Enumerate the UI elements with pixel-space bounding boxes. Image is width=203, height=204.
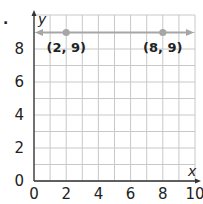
data-point: [159, 29, 166, 36]
y-axis-label: y: [37, 11, 47, 27]
tick-labels: 024681002468: [14, 40, 203, 203]
y-tick-label: 4: [14, 106, 24, 124]
point-label: (8, 9): [143, 40, 182, 55]
x-tick-label: 10: [185, 185, 203, 203]
y-tick-label: 8: [14, 40, 24, 58]
x-tick-label: 8: [158, 185, 168, 203]
point-label: (2, 9): [46, 40, 85, 55]
x-tick-label: 4: [94, 185, 104, 203]
x-axis-arrow-icon: [195, 179, 201, 184]
y-tick-label: 6: [14, 73, 24, 91]
x-axis-label: x: [187, 163, 197, 179]
line-arrow-right-icon: [186, 29, 194, 36]
y-tick-label: 2: [14, 139, 24, 157]
y-axis-arrow-icon: [32, 10, 37, 16]
y-tick-label: 0: [14, 172, 24, 190]
data-point: [63, 29, 70, 36]
x-tick-label: 6: [126, 185, 136, 203]
line-arrow-left-icon: [35, 29, 43, 36]
bullet-mark: .: [3, 11, 8, 27]
x-tick-label: 2: [61, 185, 71, 203]
axes: xy: [32, 10, 202, 184]
x-tick-label: 0: [29, 185, 39, 203]
coordinate-plane: xy 024681002468 (2, 9)(8, 9): [0, 0, 203, 204]
